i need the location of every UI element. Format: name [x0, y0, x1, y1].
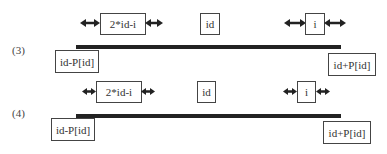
- section-label: (3): [12, 44, 25, 56]
- palindrome-range-bar: [76, 114, 341, 118]
- double-arrow-icon: [283, 87, 297, 96]
- center-box: id: [200, 13, 220, 35]
- mirror-box: 2*id-i: [96, 81, 142, 103]
- double-arrow-icon: [145, 18, 163, 28]
- section-label: (4): [12, 107, 25, 119]
- right-bound-box: id+P[id]: [323, 121, 371, 144]
- double-arrow-icon: [284, 18, 306, 28]
- right-bound-box: id+P[id]: [328, 53, 376, 76]
- double-arrow-icon: [82, 87, 96, 96]
- double-arrow-icon: [80, 18, 100, 28]
- double-arrow-icon: [141, 87, 155, 96]
- palindrome-range-bar: [76, 45, 341, 49]
- current-box: i: [297, 81, 316, 103]
- left-bound-box: id-P[id]: [51, 118, 95, 141]
- current-box: i: [305, 13, 325, 35]
- center-box: id: [197, 81, 216, 103]
- mirror-box: 2*id-i: [100, 13, 146, 35]
- left-bound-box: id-P[id]: [55, 50, 99, 73]
- double-arrow-icon: [324, 18, 346, 28]
- double-arrow-icon: [316, 87, 330, 96]
